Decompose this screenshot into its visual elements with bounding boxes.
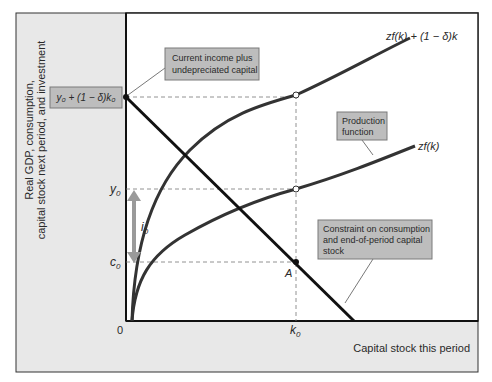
point-upper-k0 [293,92,299,98]
diagram: Real GDP, consumption, capital stock nex… [0,0,492,382]
origin-label: 0 [117,324,123,336]
upper-curve-label: zf(k) + (1 − δ)k [385,30,458,42]
constraint-annotation-line3: stock [323,246,345,256]
y-top-label: y₀ + (1 − δ)k₀ [56,92,116,103]
constraint-annotation-line1: Constraint on consumption [323,224,430,234]
point-A-label: A [284,267,292,279]
point-A [293,259,299,265]
income-annotation-line2: undepreciated capital [172,65,258,75]
y-axis-label-line2: capital stock next period, and investmen… [35,41,47,240]
point-y0 [293,186,299,192]
x-axis-label: Capital stock this period [353,342,470,354]
production-annotation-line2: function [342,127,374,137]
income-annotation-line1: Current income plus [172,53,253,63]
production-annotation-line1: Production [342,116,385,126]
constraint-annotation-line2: and end-of-period capital [323,235,423,245]
y-axis-label-line1: Real GDP, consumption, [23,80,35,200]
production-curve-label: zf(k) [417,140,440,152]
